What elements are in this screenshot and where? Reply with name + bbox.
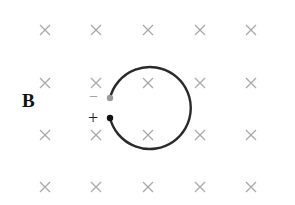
field-cross-icon bbox=[91, 25, 101, 35]
positive-terminal-dot bbox=[107, 115, 113, 121]
diagram-canvas bbox=[0, 0, 295, 205]
field-cross-icon bbox=[195, 25, 205, 35]
field-cross-icon bbox=[40, 182, 50, 192]
positive-terminal-label: + bbox=[88, 108, 98, 129]
negative-terminal-dot bbox=[107, 95, 113, 101]
field-cross-icon bbox=[246, 130, 256, 140]
magnetic-field-diagram: B − + bbox=[0, 0, 295, 205]
field-cross-icon bbox=[246, 78, 256, 88]
field-cross-icon bbox=[91, 78, 101, 88]
field-cross-icon bbox=[40, 25, 50, 35]
field-cross-icon bbox=[143, 182, 153, 192]
field-cross-icon bbox=[91, 182, 101, 192]
field-cross-icon bbox=[195, 182, 205, 192]
field-cross-icon bbox=[143, 78, 153, 88]
field-cross-icon bbox=[40, 130, 50, 140]
field-cross-icon bbox=[143, 25, 153, 35]
field-cross-icon bbox=[195, 130, 205, 140]
field-cross-icon bbox=[40, 78, 50, 88]
field-label-b: B bbox=[22, 90, 35, 112]
field-cross-icon bbox=[91, 130, 101, 140]
field-cross-icon bbox=[195, 78, 205, 88]
field-cross-icon bbox=[143, 130, 153, 140]
negative-terminal-label: − bbox=[89, 88, 98, 106]
field-cross-icon bbox=[246, 25, 256, 35]
field-cross-icon bbox=[246, 182, 256, 192]
